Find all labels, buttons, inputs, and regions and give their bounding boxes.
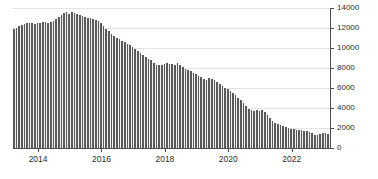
x-axis-tick [38, 148, 39, 152]
y-axis-tick [330, 28, 334, 29]
y-axis-tick [330, 108, 334, 109]
y-axis-tick [330, 88, 334, 89]
plot-area [13, 8, 330, 148]
x-axis-line [13, 148, 331, 149]
y-axis-line [330, 8, 333, 148]
bar-series [13, 8, 330, 148]
x-axis-tick-label: 2016 [92, 155, 111, 164]
y-axis-tick-label: 2000 [337, 124, 355, 132]
x-axis-tick [165, 148, 166, 152]
y-axis-tick-label: 4000 [337, 104, 355, 112]
y-axis-tick-label: 10000 [337, 44, 359, 52]
y-axis-tick-label: 6000 [337, 84, 355, 92]
x-axis-tick [228, 148, 229, 152]
y-axis-tick [330, 48, 334, 49]
y-axis-tick [330, 8, 334, 9]
x-axis-tick-label: 2022 [282, 155, 301, 164]
x-axis-tick [292, 148, 293, 152]
x-axis-tick-label: 2020 [219, 155, 238, 164]
y-axis-tick [330, 68, 334, 69]
y-axis-tick-label: 12000 [337, 24, 359, 32]
y-axis-tick-label: 8000 [337, 64, 355, 72]
x-axis-tick-label: 2014 [29, 155, 48, 164]
y-axis-tick-label: 14000 [337, 4, 359, 12]
y-axis-tick-label: 0 [337, 144, 341, 152]
x-axis-tick [101, 148, 102, 152]
bar-chart: 02000400060008000100001200014000 2014201… [0, 0, 378, 179]
y-axis-tick [330, 128, 334, 129]
x-axis-tick-label: 2018 [155, 155, 174, 164]
